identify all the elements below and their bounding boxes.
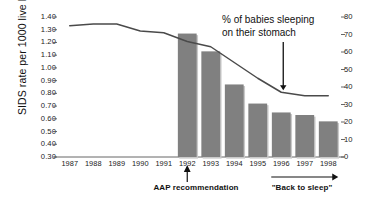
bar-fill xyxy=(272,112,291,157)
bar-fill xyxy=(178,34,197,157)
bar-1993 xyxy=(201,51,221,158)
callout-line-2: on their stomach xyxy=(222,27,296,40)
back-to-sleep-arrow xyxy=(271,174,338,181)
bar-1995 xyxy=(248,104,268,159)
bar-1992 xyxy=(178,34,198,159)
bar-1997 xyxy=(295,115,315,159)
bar-1996 xyxy=(272,112,292,158)
aap-arrow-head xyxy=(184,165,191,172)
callout-arrow-head xyxy=(280,85,286,90)
bar-fill xyxy=(319,121,338,157)
callout-arrow xyxy=(280,42,286,90)
sids-chart: SIDS rate per 1000 live births 1.401.301… xyxy=(0,0,383,199)
back-to-sleep-note: "Back to sleep" xyxy=(272,183,333,192)
bar-fill xyxy=(295,115,314,157)
callout-line-1: % of babies sleeping xyxy=(222,14,314,27)
aap-recommendation-note: AAP recommendation xyxy=(153,183,238,192)
bar-fill xyxy=(248,104,267,157)
plot-area xyxy=(0,0,383,199)
aap-arrow xyxy=(184,165,191,182)
bar-1994 xyxy=(225,84,245,158)
bar-fill xyxy=(225,84,244,157)
bar-1998 xyxy=(319,121,339,158)
back-to-sleep-arrow-head xyxy=(332,174,338,181)
bar-fill xyxy=(201,51,220,157)
